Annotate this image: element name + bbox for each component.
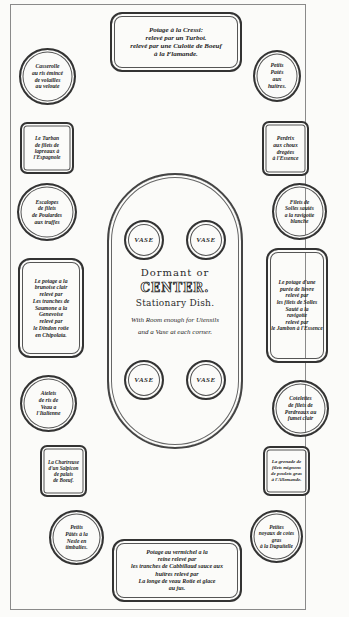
dish-line: Casserolle (36, 63, 60, 70)
centerpiece-title-1: Dormant or (109, 267, 241, 278)
dish-line: blanche (290, 218, 308, 224)
dish-line: relevé par (286, 292, 309, 299)
dish-line: Petits (70, 524, 83, 531)
dish-line: de filets de (288, 402, 313, 409)
dish-line: Veau a (41, 404, 57, 411)
dish-line: de Boeuf. (53, 477, 73, 483)
left-dish-6: La Chartreuse d'un Salpicon de palais de… (40, 445, 87, 497)
dish-line: Pâtés à la (65, 531, 87, 538)
dish-line: de volailles (35, 77, 61, 84)
dish-line: Patés (271, 69, 284, 76)
right-dish-5: Cotelettes de filets de Perdreaux au fum… (272, 380, 329, 437)
dish-line: Atelets (41, 390, 57, 397)
vase-label: VASE (196, 236, 215, 244)
dish-line: le Jambon à l'Essence (271, 325, 322, 332)
bottom-dish: Potage au vermichel a la reine relevé pa… (112, 539, 242, 602)
dish-line: Sauté a la (285, 306, 308, 313)
dish-line: brunoise clair (35, 284, 68, 291)
vase-bottom-left: VASE (124, 360, 164, 400)
dish-line: au ris émincé (32, 70, 63, 77)
centerpiece-note-2: and a Vase at each corner. (109, 328, 241, 336)
centerpiece-title-3: Stationary Dish. (109, 298, 241, 308)
bottom-dish-line: au jus. (169, 585, 186, 592)
top-dish: Potage à la Cressi: relevé par un Turbot… (110, 12, 242, 72)
dish-line: Genevoise (39, 311, 63, 318)
dish-line: ravigotte (287, 312, 307, 319)
dish-line: relevé par (39, 318, 62, 325)
top-dish-line: Potage à la Cressi: (149, 26, 203, 34)
dish-line: le Dindon rotie (33, 325, 68, 332)
dish-line: Nesle en (67, 538, 87, 545)
top-dish-line: à la Flamande. (154, 50, 198, 58)
dish-line: aux truffes (34, 219, 59, 226)
right-dish-3: Filets de Solles sautés a la ravigotte b… (272, 183, 327, 240)
dish-line: Escalopes (36, 199, 59, 206)
top-dish-line: relevé par une Culotte de Boeuf (130, 42, 222, 50)
bottom-dish-line: reine relevé par (158, 556, 197, 563)
dish-line: relevé par (286, 319, 309, 326)
centerpiece-dormant: VASE VASE Dormant or CENTER. Stationary … (107, 173, 243, 449)
left-dish-7: Petits Pâtés à la Nesle en timbalies. (49, 510, 104, 565)
bottom-dish-line: huitres relevé par (155, 571, 198, 578)
vase-label: VASE (134, 236, 153, 244)
vase-label: VASE (196, 376, 215, 384)
dish-line: au veloute (36, 83, 60, 90)
dish-line: à l'Essence (273, 155, 299, 162)
dish-line: timbalies. (65, 544, 87, 551)
bottom-dish-line: La longe de veau Rotie et glace (139, 578, 216, 585)
bottom-dish-line: Potage au vermichel a la (146, 549, 207, 556)
dish-line: Perdrix (277, 135, 294, 142)
left-dish-4: Le potage a la brunoise clair relevé par… (18, 258, 84, 358)
dish-line: à la Dupuitelle (260, 543, 293, 549)
dish-line: Saumone a la (35, 305, 67, 312)
right-dish-4: Le potage d'une purée de lievre relevé p… (266, 248, 328, 363)
vase-top-left: VASE (124, 220, 164, 260)
dish-line: en Chipolata. (35, 332, 67, 339)
centerpiece-title-2: CENTER. (109, 281, 241, 295)
dish-line: Les tranches de (33, 298, 70, 305)
left-dish-3: Escalopes de filets de Poulardes aux tru… (17, 183, 77, 241)
left-dish-1: Casserolle au ris émincé de volailles au… (19, 48, 76, 105)
dish-line: dregées (277, 149, 294, 156)
dish-line: aux choux (273, 142, 297, 149)
dish-line: Le potage d'une (279, 279, 316, 286)
dish-line: relevé par (39, 291, 62, 298)
dish-line: Le potage a la (34, 278, 67, 285)
right-dish-1: Petits Patés aux huitres. (253, 50, 301, 102)
vase-top-right: VASE (186, 220, 226, 260)
dish-line: l'Espagnole (34, 154, 61, 160)
right-dish-6: La grenade de filets mignons de poulets … (263, 446, 310, 496)
dish-line: fumet clair (288, 415, 313, 422)
vase-bottom-right: VASE (186, 360, 226, 400)
left-dish-2: Le Turban de filets de lapreaux à l'Espa… (20, 122, 74, 174)
dish-line: Cotelettes (289, 395, 311, 402)
dish-line: l'Italienne (37, 410, 61, 417)
bottom-dish-line: les tranches de Cabbillaud sauce aux (131, 563, 223, 570)
dish-line: huitres. (268, 83, 286, 90)
dish-line: à l'Allemande. (272, 477, 302, 483)
dish-line: Perdreaux au (285, 409, 317, 416)
dish-line: de Poulardes (32, 212, 62, 219)
left-dish-5: Atelets de ris de Veau a l'Italienne (20, 375, 77, 432)
dish-line: Petits (270, 62, 283, 69)
right-dish-7: Petites noyaux de cotes gras à la Dupuit… (250, 510, 303, 563)
dish-line: les filets de Solles (277, 299, 318, 306)
dish-line: aux (272, 76, 281, 83)
top-dish-line: relevé par un Turbot. (145, 34, 206, 42)
dish-line: de filets (38, 205, 56, 212)
vase-label: VASE (134, 376, 153, 384)
centerpiece-note-1: With Room enough for Utensils (109, 316, 241, 324)
dish-line: de ris de (39, 397, 58, 404)
right-dish-2: Perdrix aux choux dregées à l'Essence (262, 121, 309, 176)
dish-line: purée de lievre (280, 286, 314, 293)
